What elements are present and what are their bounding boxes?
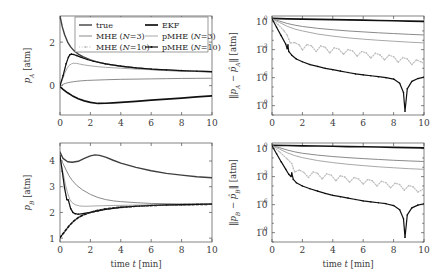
series-marker-pmhe-n10 (66, 199, 68, 201)
y-tick-exponent-bottom-right: 0 (264, 141, 268, 148)
series-marker-mhe-n10 (390, 187, 392, 189)
series-marker-mhe-n10 (407, 58, 409, 60)
series-marker-mhe-n10 (356, 55, 358, 57)
y-tick-label-bottom-left: 2 (49, 208, 55, 218)
x-tick-label-bottom-left: 2 (88, 245, 94, 255)
series-marker-mhe-n10 (306, 44, 308, 46)
series-marker-pmhe-n10 (332, 195, 334, 197)
series-marker-pmhe-n10 (403, 218, 405, 220)
series-marker-mhe-n10 (375, 53, 377, 55)
series-marker-pmhe-n10 (69, 54, 71, 56)
series-marker-mhe-n10 (320, 45, 322, 47)
series-marker-mhe-n10 (376, 185, 378, 187)
y-axis-title-bottom-right: ‖pB − p̂B‖ [atm] (228, 159, 241, 226)
series-marker-pmhe-n10 (285, 168, 287, 170)
series-marker-mhe-n10 (321, 178, 323, 180)
x-tick-label-bottom-left: 4 (118, 245, 124, 255)
x-tick-label-top-left: 0 (57, 118, 63, 128)
series-marker-pmhe-n10 (73, 54, 75, 56)
series-marker-mhe-n10 (277, 24, 279, 26)
series-marker-mhe-n10 (403, 189, 405, 191)
x-tick-label-top-right: 4 (330, 118, 336, 128)
legend-label-ekf: EKF (162, 21, 180, 30)
series-marker-mhe-n10 (362, 183, 364, 185)
legend-marker-mhe-n10 (84, 46, 86, 48)
series-marker-pmhe-n10 (370, 75, 372, 77)
series-marker-mhe-n10 (289, 42, 291, 44)
series-marker-pmhe-n10 (417, 78, 419, 80)
x-tick-label-bottom-left: 0 (57, 245, 63, 255)
series-marker-pmhe-n10 (378, 76, 380, 78)
series-marker-mhe-n10 (303, 172, 305, 174)
series-marker-pmhe-n10 (271, 145, 273, 147)
series-marker-pmhe-n10 (71, 53, 73, 55)
series-marker-mhe-n10 (384, 59, 386, 61)
norm-close: ‖ [atm] (228, 32, 239, 62)
series-marker-pmhe-n10 (105, 209, 107, 211)
series-marker-mhe-n10 (302, 49, 304, 51)
y-tick-exponent-bottom-right: −6 (259, 197, 268, 204)
minus: − (228, 199, 238, 212)
series-marker-pmhe-n10 (347, 72, 349, 74)
series-marker-pmhe-n10 (280, 35, 282, 37)
series-marker-mhe-n10 (416, 59, 418, 61)
series-marker-pmhe-n10 (362, 74, 364, 76)
lt-main: MHE ( (96, 32, 123, 41)
series-marker-mhe-n10 (394, 182, 396, 184)
y-tick-label-top-left: 0 (49, 81, 55, 91)
series-marker-pmhe-n10 (355, 73, 357, 75)
series-marker-mhe-n10 (385, 182, 387, 184)
series-marker-pmhe-n10 (309, 188, 311, 190)
series-marker-pmhe-n10 (417, 204, 419, 206)
panel-bottom-right: 024681010010−310−610−9 (256, 141, 430, 255)
series-marker-pmhe-n10 (120, 207, 122, 209)
series-marker-pmhe-n10 (68, 199, 70, 201)
series-marker-mhe-n10 (399, 184, 401, 186)
x-axis-title-bottom-right: time t [min] (323, 259, 374, 269)
series-marker-pmhe-n10 (393, 78, 395, 80)
panel-bottom-left: 02468101234 (49, 143, 218, 255)
series-marker-mhe-n10 (340, 175, 342, 177)
series-marker-pmhe-n10 (423, 203, 425, 205)
series-marker-pmhe-n10 (340, 196, 342, 198)
series-marker-mhe-n10 (308, 177, 310, 179)
x-tick-label-top-right: 6 (360, 118, 366, 128)
lt-main: pMHE ( (162, 32, 194, 41)
series-marker-pmhe-n10 (423, 76, 425, 78)
series-marker-pmhe-n10 (120, 65, 122, 67)
series-marker-pmhe-n10 (288, 51, 290, 53)
series-marker-mhe-n10 (326, 173, 328, 175)
series-marker-pmhe-n10 (403, 92, 405, 94)
series-marker-mhe-n10 (397, 61, 399, 63)
x-tick-label-bottom-left: 10 (206, 245, 218, 255)
legend-label-pmhe-n10: pMHE (N=10) (162, 43, 221, 52)
series-marker-mhe-n10 (349, 181, 351, 183)
series-marker-mhe-n10 (413, 186, 415, 188)
panel-top-right: 024681010010−310−610−9 (256, 14, 430, 128)
series-marker-mhe-n10 (317, 173, 319, 175)
series-marker-pmhe-n10 (393, 205, 395, 207)
series-marker-pmhe-n10 (324, 193, 326, 195)
xlabel-a: time (323, 259, 345, 269)
series-marker-mhe-n10 (312, 171, 314, 173)
series-marker-pmhe-n10 (77, 213, 79, 215)
series-marker-mhe-n10 (365, 52, 367, 54)
series-marker-mhe-n10 (411, 64, 413, 66)
legend: trueEKFMHE (N=3)pMHE (N=3)MHE (N=10)pMHE… (75, 17, 221, 52)
series-marker-pmhe-n10 (378, 202, 380, 204)
lt-val: =10) (201, 43, 221, 52)
series-marker-mhe-n10 (331, 174, 333, 176)
series-marker-mhe-n10 (420, 61, 422, 63)
series-marker-pmhe-n10 (105, 63, 107, 64)
x-tick-label-bottom-right: 8 (391, 245, 397, 255)
x-tick-label-bottom-left: 6 (148, 245, 154, 255)
series-marker-pmhe-n10 (411, 207, 413, 209)
series-marker-mhe-n10 (379, 54, 381, 56)
series-marker-pmhe-n10 (399, 83, 401, 85)
series-marker-pmhe-n10 (324, 68, 326, 70)
y-tick-exponent-top-right: −6 (259, 70, 268, 77)
series-marker-pmhe-n10 (385, 203, 387, 205)
y-axis-title-bottom-left: pB [atm] (22, 175, 35, 211)
series-marker-mhe-n10 (315, 51, 317, 53)
x-tick-label-top-right: 2 (300, 118, 306, 128)
